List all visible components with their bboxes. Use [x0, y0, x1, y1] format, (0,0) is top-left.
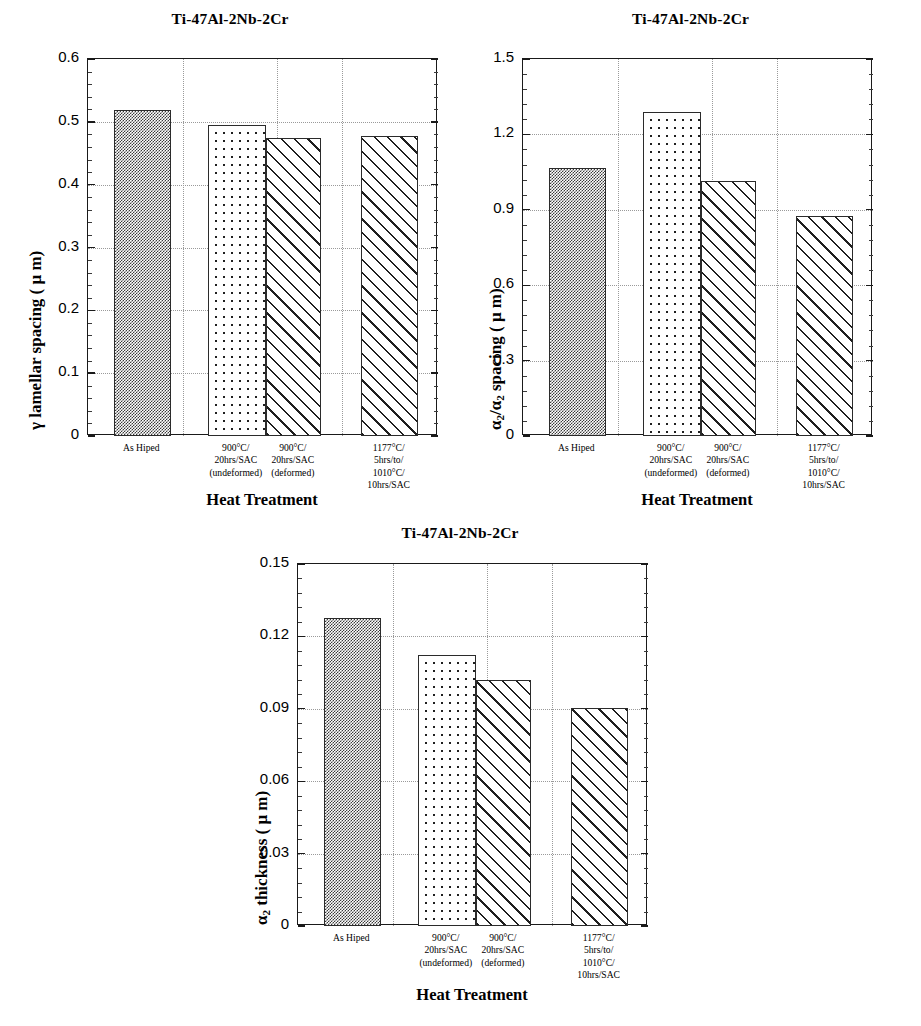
y-axis-label-sub-1: 2	[494, 415, 506, 421]
y-axis-minor-tick	[644, 578, 648, 579]
y-axis-tick	[866, 209, 873, 210]
y-axis-minor-tick	[88, 72, 92, 73]
y-axis-minor-tick	[644, 723, 648, 724]
x-axis-label: Heat Treatment	[522, 490, 872, 510]
y-axis-minor-tick	[523, 104, 527, 105]
y-axis-tick	[431, 184, 438, 185]
y-axis-tick-label: 0.6	[462, 274, 514, 291]
y-axis-tick	[641, 636, 648, 637]
x-axis-label: Heat Treatment	[297, 985, 647, 1005]
y-axis-minor-tick	[869, 240, 873, 241]
y-axis-tick	[523, 209, 530, 210]
y-axis-minor-tick	[523, 300, 527, 301]
y-axis-minor-tick	[523, 391, 527, 392]
y-axis-minor-tick	[523, 180, 527, 181]
y-axis-minor-tick	[298, 767, 302, 768]
y-axis-minor-tick	[298, 839, 302, 840]
chart-panel-alpha2-alpha2-spacing: Ti-47Al-2Nb-2Cr α2/α2 spacing ( μ m) Hea…	[460, 0, 921, 520]
y-axis-tick	[866, 435, 873, 436]
y-axis-minor-tick	[869, 300, 873, 301]
y-axis-tick	[866, 134, 873, 135]
y-axis-tick	[641, 563, 648, 564]
y-axis-minor-tick	[298, 665, 302, 666]
y-axis-minor-tick	[298, 622, 302, 623]
y-axis-tick	[523, 360, 530, 361]
y-axis-minor-tick	[88, 260, 92, 261]
y-axis-minor-tick	[644, 680, 648, 681]
y-axis-minor-tick	[523, 89, 527, 90]
y-axis-minor-tick	[298, 651, 302, 652]
x-axis-tick-label-line: 1010°C/	[539, 957, 659, 969]
y-axis-minor-tick	[523, 255, 527, 256]
y-axis-minor-tick	[434, 197, 438, 198]
y-axis-minor-tick	[434, 423, 438, 424]
y-axis-tick-label: 1.2	[462, 123, 514, 140]
y-axis-minor-tick	[523, 406, 527, 407]
y-axis-tick	[298, 925, 305, 926]
y-axis-minor-tick	[88, 386, 92, 387]
y-axis-minor-tick	[523, 74, 527, 75]
y-axis-minor-tick	[88, 285, 92, 286]
chart-title: Ti-47Al-2Nb-2Cr	[460, 10, 921, 28]
y-axis-minor-tick	[88, 172, 92, 173]
x-axis-tick-label-line: 1010°C/	[764, 467, 884, 479]
y-axis-minor-tick	[869, 74, 873, 75]
y-axis-minor-tick	[644, 738, 648, 739]
x-axis-tick-label-line: 5hrs/to/	[329, 454, 449, 466]
y-axis-minor-tick	[644, 651, 648, 652]
y-axis-tick	[523, 134, 530, 135]
y-axis-minor-tick	[434, 172, 438, 173]
y-axis-minor-tick	[298, 593, 302, 594]
y-axis-minor-tick	[644, 622, 648, 623]
y-axis-minor-tick	[88, 147, 92, 148]
bar-2	[643, 112, 701, 436]
y-axis-tick	[298, 636, 305, 637]
bar-4	[571, 708, 628, 926]
y-axis-minor-tick	[644, 912, 648, 913]
gridline-vertical	[618, 59, 619, 436]
gridline-vertical	[777, 59, 778, 436]
y-axis-minor-tick	[88, 411, 92, 412]
y-axis-minor-tick	[298, 738, 302, 739]
y-axis-tick-label: 0.4	[27, 174, 79, 191]
y-axis-minor-tick	[869, 255, 873, 256]
y-axis-minor-tick	[869, 149, 873, 150]
y-axis-tick	[88, 435, 95, 436]
y-axis-tick	[88, 121, 95, 122]
x-axis-tick-label: 1177°C/5hrs/to/1010°C/10hrs/SAC	[329, 442, 449, 492]
y-axis-minor-tick	[434, 134, 438, 135]
y-axis-tick	[431, 121, 438, 122]
y-axis-minor-tick	[88, 235, 92, 236]
y-axis-minor-tick	[298, 578, 302, 579]
y-axis-tick	[298, 853, 305, 854]
y-axis-minor-tick	[434, 411, 438, 412]
y-axis-tick-label: 0.3	[27, 237, 79, 254]
y-axis-minor-tick	[869, 421, 873, 422]
y-axis-minor-tick	[88, 323, 92, 324]
y-axis-minor-tick	[434, 323, 438, 324]
y-axis-minor-tick	[869, 180, 873, 181]
bar-2	[208, 125, 266, 436]
y-axis-minor-tick	[644, 839, 648, 840]
y-axis-minor-tick	[298, 868, 302, 869]
y-axis-tick	[866, 285, 873, 286]
y-axis-minor-tick	[434, 348, 438, 349]
y-axis-minor-tick	[523, 195, 527, 196]
y-axis-minor-tick	[88, 298, 92, 299]
y-axis-tick-label: 0.03	[237, 843, 289, 860]
y-axis-minor-tick	[523, 330, 527, 331]
y-axis-minor-tick	[434, 84, 438, 85]
y-axis-minor-tick	[434, 109, 438, 110]
y-axis-minor-tick	[298, 723, 302, 724]
x-axis-tick-label: 1177°C/5hrs/to/1010°C/10hrs/SAC	[539, 932, 659, 982]
y-axis-tick	[641, 781, 648, 782]
y-axis-minor-tick	[523, 149, 527, 150]
y-axis-minor-tick	[644, 868, 648, 869]
y-axis-tick	[298, 708, 305, 709]
y-axis-minor-tick	[523, 119, 527, 120]
y-axis-minor-tick	[88, 335, 92, 336]
y-axis-minor-tick	[434, 72, 438, 73]
y-axis-minor-tick	[869, 104, 873, 105]
y-axis-minor-tick	[523, 165, 527, 166]
bar-3	[476, 680, 532, 926]
